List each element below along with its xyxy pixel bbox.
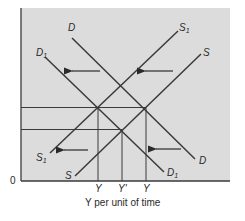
label-S-bottom: S <box>65 170 72 181</box>
origin-label: 0 <box>10 175 16 186</box>
x-tick-label-3: Y <box>143 183 151 194</box>
label-D-top: D <box>68 22 75 33</box>
label-S-top: S <box>203 47 210 58</box>
supply-demand-diagram: D D1 S1 S S1 S D D1 0 Y Y' Y Y per unit … <box>0 0 245 221</box>
x-tick-label-1: Y <box>95 183 103 194</box>
x-axis-title: Y per unit of time <box>85 197 161 208</box>
label-D-bottom: D <box>199 155 206 166</box>
x-tick-label-2: Y' <box>118 183 128 194</box>
